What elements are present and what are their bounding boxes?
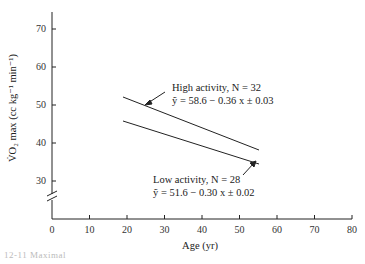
x-tick-label: 0	[50, 224, 55, 235]
high-activity-label: High activity, N = 32	[172, 82, 261, 93]
y-tick-labels: 70 60 50 40 30	[36, 23, 46, 186]
low-activity-equation: ỹ = 51.6 − 0.30 x ± 0.02	[153, 187, 255, 198]
x-ticks	[90, 215, 353, 219]
y-tick-label: 60	[36, 61, 46, 72]
chart-canvas: 70 60 50 40 30 0 10 20 30 40 50 60 70 80…	[0, 0, 365, 264]
y-axis-title: V̇O₂ max (cc kg⁻¹ min⁻¹)	[7, 54, 19, 162]
y-ticks	[52, 29, 56, 181]
x-axis-title: Age (yr)	[182, 240, 218, 252]
x-tick-label: 30	[160, 224, 170, 235]
figure-caption-fragment: 12-11 Maximal	[4, 250, 66, 260]
high-activity-arrow-icon	[145, 92, 165, 105]
y-tick-label: 70	[36, 23, 46, 34]
x-tick-label: 20	[122, 224, 132, 235]
y-tick-label: 50	[36, 99, 46, 110]
y-tick-label: 30	[36, 175, 46, 186]
y-tick-label: 40	[36, 137, 46, 148]
low-activity-arrow-icon	[243, 161, 256, 175]
x-tick-label: 50	[235, 224, 245, 235]
x-tick-label: 60	[272, 224, 282, 235]
x-tick-label: 80	[347, 224, 357, 235]
low-activity-label: Low activity, N = 28	[153, 174, 240, 185]
x-tick-label: 70	[310, 224, 320, 235]
x-tick-label: 40	[197, 224, 207, 235]
high-activity-equation: ỹ = 58.6 − 0.36 x ± 0.03	[172, 95, 274, 106]
x-tick-labels: 0 10 20 30 40 50 60 70 80	[50, 224, 358, 235]
x-tick-label: 10	[85, 224, 95, 235]
